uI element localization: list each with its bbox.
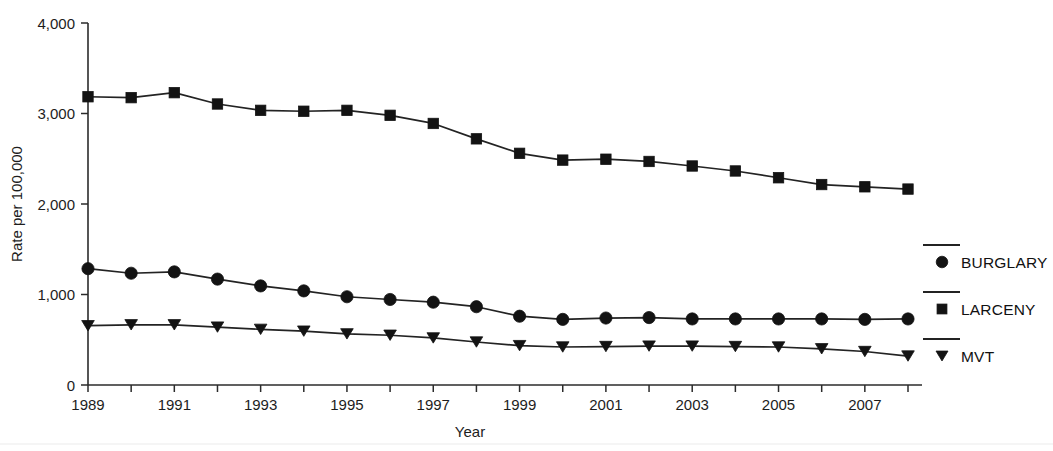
x-tick-label-1999: 1999: [503, 396, 536, 413]
chart-canvas: 01,0002,0003,0004,000 198919911993199519…: [0, 0, 1053, 451]
data-point-larceny-2002: [644, 156, 654, 166]
legend-marker-burglary: [936, 256, 948, 268]
data-point-burglary-1994: [298, 285, 310, 297]
data-point-larceny-2006: [816, 179, 826, 189]
data-point-burglary-2006: [816, 313, 828, 325]
x-tick-label-1989: 1989: [71, 396, 104, 413]
x-tick-label-1997: 1997: [417, 396, 450, 413]
legend-label-burglary: BURGLARY: [961, 254, 1048, 271]
data-point-burglary-2000: [557, 313, 569, 325]
data-point-burglary-1995: [341, 291, 353, 303]
data-point-burglary-2007: [859, 313, 871, 325]
data-point-larceny-1997: [428, 118, 438, 128]
data-point-burglary-1991: [168, 266, 180, 278]
x-tick-label-1991: 1991: [158, 396, 191, 413]
data-point-burglary-2002: [643, 311, 655, 323]
data-point-larceny-1996: [385, 110, 395, 120]
data-point-larceny-2004: [730, 166, 740, 176]
data-point-burglary-1997: [427, 296, 439, 308]
data-point-larceny-1998: [471, 134, 481, 144]
x-tick-label-2003: 2003: [676, 396, 709, 413]
legend-label-mvt: MVT: [961, 348, 995, 365]
legend-marker-mvt: [936, 351, 948, 361]
series-larceny: [83, 87, 913, 194]
data-point-burglary-1989: [82, 263, 94, 275]
legend-marker-larceny: [937, 304, 947, 314]
series-line-burglary: [88, 269, 908, 320]
data-point-burglary-2003: [686, 313, 698, 325]
data-point-burglary-2004: [729, 313, 741, 325]
axes: [81, 23, 922, 392]
data-point-larceny-1999: [514, 148, 524, 158]
y-tick-label-1000: 1,000: [37, 286, 75, 303]
y-tick-label-2000: 2,000: [37, 196, 75, 213]
legend-label-larceny: LARCENY: [961, 301, 1036, 318]
data-series-layer: [82, 87, 915, 361]
plot-area: 01,0002,0003,0004,000 198919911993199519…: [37, 15, 922, 414]
x-tick-label-2001: 2001: [589, 396, 622, 413]
x-tick-label-2005: 2005: [762, 396, 795, 413]
legend-item-burglary[interactable]: BURGLARY: [923, 245, 1048, 271]
data-point-larceny-2008: [903, 184, 913, 194]
x-tick-label-2007: 2007: [848, 396, 881, 413]
y-tick-label-4000: 4,000: [37, 15, 75, 32]
data-point-larceny-2007: [860, 182, 870, 192]
data-point-larceny-2000: [558, 155, 568, 165]
y-tick-label-3000: 3,000: [37, 105, 75, 122]
data-point-larceny-2005: [773, 173, 783, 183]
data-point-larceny-1991: [169, 87, 179, 97]
data-point-larceny-1992: [212, 99, 222, 109]
data-point-burglary-1999: [513, 310, 525, 322]
data-point-burglary-1990: [125, 267, 137, 279]
x-tick-label-1993: 1993: [244, 396, 277, 413]
data-point-larceny-1989: [83, 92, 93, 102]
x-axis-ticks: [88, 385, 908, 392]
series-burglary: [82, 263, 914, 326]
data-point-burglary-1993: [255, 280, 267, 292]
y-axis-tick-labels: 01,0002,0003,0004,000: [37, 15, 75, 394]
data-point-burglary-1996: [384, 293, 396, 305]
data-point-burglary-1998: [470, 301, 482, 313]
y-tick-label-0: 0: [67, 377, 75, 394]
series-line-mvt: [88, 325, 908, 356]
data-point-larceny-1994: [299, 106, 309, 116]
data-point-larceny-1993: [255, 105, 265, 115]
chart-legend: BURGLARYLARCENYMVT: [923, 245, 1048, 365]
x-axis-title: Year: [455, 423, 485, 440]
data-point-larceny-1995: [342, 105, 352, 115]
data-point-burglary-2005: [772, 313, 784, 325]
crime-rate-line-chart: 01,0002,0003,0004,000 198919911993199519…: [0, 0, 1053, 451]
y-axis-title: Rate per 100,000: [8, 146, 25, 262]
data-point-burglary-2008: [902, 313, 914, 325]
series-mvt: [82, 320, 915, 362]
series-line-larceny: [88, 93, 908, 189]
x-tick-label-1995: 1995: [330, 396, 363, 413]
x-axis-tick-labels: 1989199119931995199719992001200320052007: [71, 396, 881, 413]
data-point-burglary-2001: [600, 312, 612, 324]
y-axis-ticks: [81, 23, 88, 385]
data-point-larceny-2003: [687, 161, 697, 171]
data-point-larceny-2001: [601, 154, 611, 164]
legend-item-mvt[interactable]: MVT: [923, 339, 995, 365]
legend-item-larceny[interactable]: LARCENY: [923, 292, 1036, 318]
data-point-larceny-1990: [126, 92, 136, 102]
data-point-burglary-1992: [211, 273, 223, 285]
